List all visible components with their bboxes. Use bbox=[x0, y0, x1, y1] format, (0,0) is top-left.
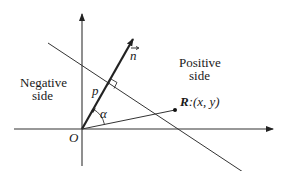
segment-OR bbox=[82, 110, 175, 129]
negative-side-label-2: side bbox=[32, 88, 53, 103]
distance-label-p: p bbox=[91, 83, 99, 98]
point-R bbox=[173, 108, 177, 112]
normal-vector-arrow bbox=[82, 39, 133, 129]
point-R-coords: :(x, y) bbox=[189, 94, 220, 109]
normal-vector-label: n bbox=[130, 48, 137, 63]
positive-side-label-2: side bbox=[189, 68, 210, 83]
origin-label: O bbox=[69, 130, 79, 145]
point-R-label: R:(x, y) bbox=[179, 94, 220, 109]
line-normal-form-diagram: Negative side Positive side n p α O R:(x… bbox=[0, 0, 289, 171]
point-R-name: R bbox=[179, 94, 189, 109]
angle-label-alpha: α bbox=[100, 106, 108, 121]
